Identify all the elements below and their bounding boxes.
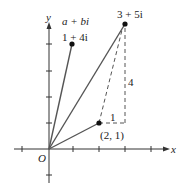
complex-plane-diagram: y x O a + bi 1 + 4i 3 + 5i (2, 1) 1 4 <box>0 0 186 193</box>
y-axis-label: y <box>45 11 51 23</box>
y-axis <box>46 26 52 183</box>
point-3-5i <box>122 21 127 26</box>
diagram-canvas: y x O a + bi 1 + 4i 3 + 5i (2, 1) 1 4 <box>0 0 186 193</box>
x-axis-arrow-icon <box>163 147 170 152</box>
x-axis <box>14 146 166 152</box>
point-label-1-4i: 1 + 4i <box>62 31 88 43</box>
origin-label: O <box>38 152 46 164</box>
dashed-label-vertical: 4 <box>128 76 134 88</box>
x-axis-label: x <box>170 143 176 155</box>
point-2-1 <box>96 120 101 125</box>
point-label-2-1: (2, 1) <box>100 129 124 142</box>
dashed-parallel-line <box>99 30 122 123</box>
dashed-label-horizontal: 1 <box>110 111 116 123</box>
y-axis-arrow-icon <box>47 22 52 29</box>
general-form-label: a + bi <box>62 15 89 27</box>
point-label-3-5i: 3 + 5i <box>117 8 143 20</box>
vector-1-4i <box>49 44 72 149</box>
